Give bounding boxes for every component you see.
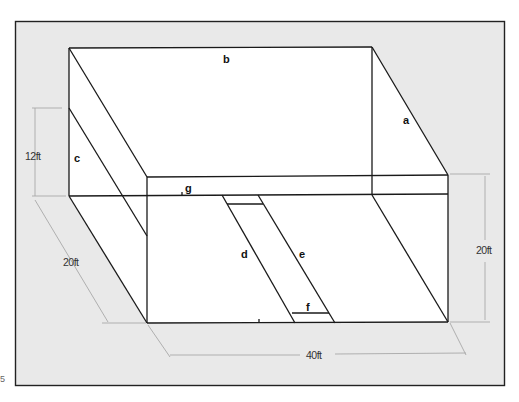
label-g: g <box>185 182 192 194</box>
label-d: d <box>241 248 248 260</box>
dimension-width: 40ft <box>306 349 322 361</box>
label-c: c <box>74 152 80 164</box>
dimension-depth: 20ft <box>63 256 79 268</box>
label-a: a <box>403 114 410 126</box>
label-b: b <box>223 53 230 65</box>
room-diagram: a b c d e f g 12ft 20ft 40ft 20ft 5 <box>0 0 519 402</box>
side-mark: 5 <box>0 374 5 384</box>
label-f: f <box>306 301 310 313</box>
label-e: e <box>299 248 305 260</box>
dimension-height-right: 20ft <box>476 244 492 256</box>
floor-surface <box>147 175 448 323</box>
dimension-height-left: 12ft <box>25 150 41 162</box>
